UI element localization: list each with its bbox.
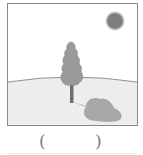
answer-paren-right: ) (95, 131, 102, 151)
divider (6, 153, 137, 154)
scene-illustration (0, 0, 143, 130)
sun-icon (105, 11, 125, 31)
answer-paren-left: ( (39, 131, 46, 151)
